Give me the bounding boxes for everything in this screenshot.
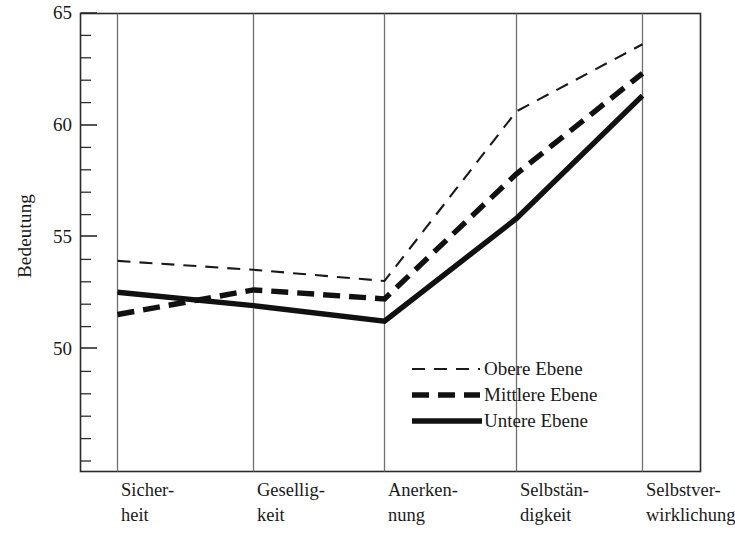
x-tick-label-sicherheit: Sicher- heit	[121, 478, 174, 528]
y-axis-major-ticks	[81, 13, 98, 348]
series-line-untere-ebene	[118, 96, 643, 322]
legend-item-mittlere-ebene: Mittlere Ebene	[410, 382, 660, 408]
legend-item-untere-ebene: Untere Ebene	[410, 408, 660, 434]
x-tick-label-selbstaendigkeit: Selbstän- digkeit	[520, 478, 589, 528]
series-line-obere-ebene	[118, 44, 643, 281]
series-line-mittlere-ebene	[118, 73, 643, 314]
x-axis-tick-labels: Sicher- heit Gesellig- keit Anerken- nun…	[0, 478, 708, 540]
x-tick-label-anerkennung: Anerken- nung	[388, 478, 458, 528]
legend-label-untere-ebene: Untere Ebene	[484, 408, 588, 434]
legend-label-obere-ebene: Obere Ebene	[484, 356, 583, 382]
x-tick-label-selbstverwirklichung: Selbstver- wirklichung	[646, 478, 735, 528]
x-tick-label-geselligkeit: Gesellig- keit	[257, 478, 325, 528]
legend: Obere Ebene Mittlere Ebene Untere Ebene	[410, 356, 660, 434]
legend-swatch-thin-dashed	[410, 356, 482, 382]
y-axis-minor-ticks	[81, 35, 92, 461]
legend-item-obere-ebene: Obere Ebene	[410, 356, 660, 382]
legend-swatch-thick-solid	[410, 408, 482, 434]
legend-swatch-thick-dashed	[410, 382, 482, 408]
legend-label-mittlere-ebene: Mittlere Ebene	[484, 382, 597, 408]
